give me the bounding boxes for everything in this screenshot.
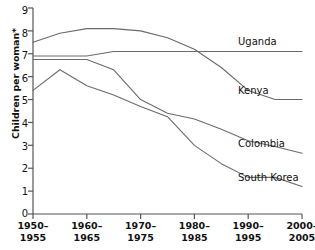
x-tick-label: 1950–1955	[5, 220, 61, 244]
x-tick-label: 2000–2005	[274, 220, 315, 244]
x-tick-label-line1: 2000–	[274, 220, 315, 232]
y-axis-ticks	[28, 8, 33, 214]
x-tick-label: 1960–1965	[59, 220, 115, 244]
x-axis-ticks	[33, 214, 302, 219]
series-label-colombia: Colombia	[238, 139, 285, 149]
x-tick-label-line2: 1985	[166, 232, 222, 244]
x-tick-label-line1: 1960–	[59, 220, 115, 232]
x-tick-label-line1: 1990–	[220, 220, 276, 232]
x-tick-label-line1: 1950–	[5, 220, 61, 232]
series-lines	[33, 29, 302, 187]
x-tick-label: 1970–1975	[113, 220, 169, 244]
series-label-uganda: Uganda	[238, 37, 277, 47]
series-line-kenya	[33, 51, 302, 56]
x-tick-label-line2: 2005	[274, 232, 315, 244]
series-label-south-korea: South Korea	[238, 173, 299, 183]
fertility-line-chart: Children per woman* 9 8 7 6 5 4 3 2 1 0 …	[0, 0, 315, 250]
x-tick-label-line2: 1955	[5, 232, 61, 244]
x-tick-label-line2: 1975	[113, 232, 169, 244]
x-tick-label-line2: 1965	[59, 232, 115, 244]
x-tick-label-line2: 1995	[220, 232, 276, 244]
series-label-kenya: Kenya	[238, 86, 269, 96]
x-tick-label-line1: 1980–	[166, 220, 222, 232]
x-tick-label: 1980–1985	[166, 220, 222, 244]
x-tick-label-line1: 1970–	[113, 220, 169, 232]
x-tick-label: 1990–1995	[220, 220, 276, 244]
